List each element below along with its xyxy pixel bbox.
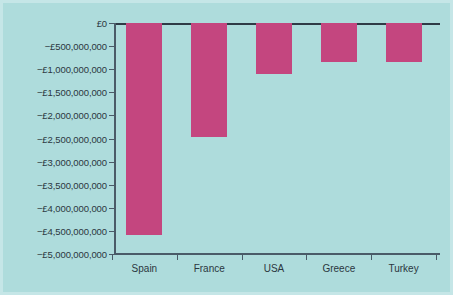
y-axis-tick-label: −£1,500,000,000	[3, 87, 107, 98]
bar	[126, 23, 162, 235]
x-axis-category-label: USA	[264, 263, 285, 274]
y-axis-tick-label: −£3,500,000,000	[3, 179, 107, 190]
x-axis-tick-mark	[242, 255, 243, 260]
bar	[386, 23, 422, 62]
chart-figure: £0−£500,000,000−£1,000,000,000−£1,500,00…	[0, 0, 453, 295]
x-axis-category-label: France	[194, 263, 225, 274]
x-axis-tick-mark	[306, 255, 307, 260]
bar	[191, 23, 227, 137]
x-axis-category-label: Greece	[322, 263, 355, 274]
y-axis-tick-label: −£3,000,000,000	[3, 156, 107, 167]
x-axis-tick-mark	[177, 255, 178, 260]
plot-area	[116, 23, 440, 254]
y-axis-tick-label: £0	[3, 18, 107, 29]
y-axis-tick-label: −£2,000,000,000	[3, 110, 107, 121]
y-axis-tick-label: −£5,000,000,000	[3, 249, 107, 260]
x-axis-category-label: Spain	[132, 263, 158, 274]
bar	[256, 23, 292, 74]
x-axis-tick-mark	[371, 255, 372, 260]
x-axis-tick-mark	[436, 255, 437, 260]
x-axis-tick-mark	[112, 255, 113, 260]
y-axis-tick-label: −£1,000,000,000	[3, 64, 107, 75]
bar	[321, 23, 357, 62]
y-axis-tick-label: −£2,500,000,000	[3, 133, 107, 144]
y-axis-tick-label: −£500,000,000	[3, 41, 107, 52]
y-axis-tick-label: −£4,500,000,000	[3, 225, 107, 236]
x-axis-category-label: Turkey	[388, 263, 418, 274]
y-axis-labels: £0−£500,000,000−£1,000,000,000−£1,500,00…	[3, 3, 107, 295]
y-axis-tick-label: −£4,000,000,000	[3, 202, 107, 213]
